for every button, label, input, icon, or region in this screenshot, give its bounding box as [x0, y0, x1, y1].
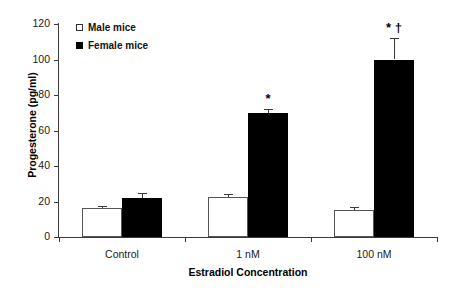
y-axis-tick-label: 120 [32, 17, 50, 29]
x-axis-category-label: 100 nM [356, 248, 391, 260]
y-axis-tick: 20 [54, 202, 59, 203]
y-axis-tick: 80 [54, 95, 59, 96]
x-axis-category-label: 1 nM [236, 248, 259, 260]
legend-item-female: Female mice [76, 40, 148, 51]
y-axis-tick: 60 [54, 131, 59, 132]
bar-female [122, 198, 162, 237]
x-axis-tick [59, 237, 60, 242]
y-axis-tick-label: 0 [44, 230, 50, 242]
y-axis-tick-label: 80 [38, 88, 50, 100]
error-bar-cap [138, 193, 147, 194]
error-bar-cap [98, 206, 107, 207]
y-axis-tick-label: 100 [32, 53, 50, 65]
x-axis-title: Estradiol Concentration [59, 266, 437, 278]
bar-female [248, 113, 288, 237]
x-axis-tick [185, 237, 186, 242]
x-axis-category-label: Control [105, 248, 139, 260]
error-bar-cap [264, 109, 273, 110]
x-axis-tick [311, 237, 312, 242]
error-bar-cap [350, 207, 359, 208]
chart-legend: Male mice Female mice [76, 22, 148, 58]
bar-male [82, 208, 122, 237]
significance-marker: * [265, 92, 270, 105]
legend-label-male: Male mice [88, 22, 136, 33]
filled-square-icon [76, 42, 83, 49]
significance-marker: * † [386, 21, 402, 34]
y-axis-tick: 100 [54, 60, 59, 61]
progesterone-bar-chart: Progesterone (pg/ml) 020406080100120** †… [0, 0, 450, 292]
error-bar [394, 38, 395, 59]
open-square-icon [76, 24, 83, 31]
error-bar-cap [390, 38, 399, 39]
y-axis-tick-label: 40 [38, 159, 50, 171]
x-axis-line [58, 237, 438, 238]
y-axis-tick-label: 20 [38, 195, 50, 207]
x-axis-tick [437, 237, 438, 242]
bar-female [374, 60, 414, 238]
y-axis-tick: 40 [54, 166, 59, 167]
bar-male [208, 197, 248, 237]
legend-item-male: Male mice [76, 22, 148, 33]
y-axis-tick-label: 60 [38, 124, 50, 136]
bar-male [334, 210, 374, 237]
legend-label-female: Female mice [88, 40, 148, 51]
y-axis-tick: 120 [54, 24, 59, 25]
error-bar-cap [224, 194, 233, 195]
